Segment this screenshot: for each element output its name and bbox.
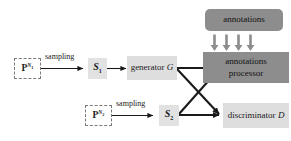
node-generator[interactable]: generator G — [127, 56, 177, 80]
annotation-feed-arrow-2 — [223, 35, 231, 52]
discriminator-label: discriminator D — [228, 111, 285, 121]
sample-1-label: S1 — [93, 62, 102, 74]
annotation-feed-arrow-3 — [235, 35, 243, 52]
node-source-distribution-1[interactable]: PN1 — [14, 58, 41, 79]
node-sample-set-2[interactable]: S2 — [159, 105, 179, 126]
node-sample-set-1[interactable]: S1 — [88, 58, 107, 79]
source-1-label: PN1 — [22, 63, 34, 73]
annotation-feed-arrow-1 — [211, 35, 219, 52]
node-annotations[interactable]: annotations — [205, 9, 283, 31]
generator-label: generator G — [131, 63, 174, 73]
pipeline-diagram: PN1 sampling S1 generator G PN2 sampling… — [0, 0, 291, 141]
annotations-processor-line-1: annotations — [225, 56, 267, 67]
node-source-distribution-2[interactable]: PN2 — [85, 105, 112, 126]
annotations-label: annotations — [223, 15, 265, 25]
node-discriminator[interactable]: discriminator D — [223, 103, 289, 128]
node-annotations-processor[interactable]: annotations processor — [203, 52, 289, 83]
sample-2-label: S2 — [165, 109, 174, 121]
label-sampling-1: sampling — [45, 52, 74, 61]
label-sampling-2: sampling — [116, 99, 145, 108]
annotation-feed-arrows — [211, 35, 255, 52]
annotation-feed-arrow-4 — [247, 35, 255, 52]
source-2-label: PN2 — [93, 110, 105, 120]
annotations-processor-line-2: processor — [229, 68, 264, 79]
